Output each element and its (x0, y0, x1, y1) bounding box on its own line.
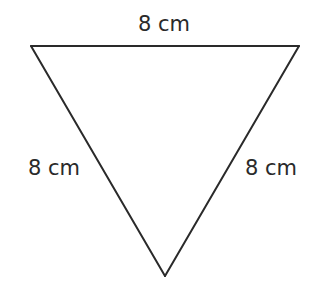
triangle-diagram (0, 0, 320, 290)
side-right-length-label: 8 cm (245, 158, 297, 179)
side-left-length-label: 8 cm (28, 158, 80, 179)
side-top-length-label: 8 cm (138, 14, 190, 35)
